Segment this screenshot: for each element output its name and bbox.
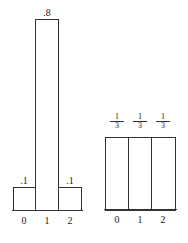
tick-left-0: 0 <box>14 216 34 226</box>
fraction-label-right-0: 1 3 <box>110 113 124 130</box>
value-label-left-0: .1 <box>14 176 34 186</box>
bar-left-2 <box>58 187 82 211</box>
tick-right-2: 2 <box>153 215 173 225</box>
fraction-label-right-1: 1 3 <box>133 113 147 130</box>
bar-right-2 <box>151 137 176 211</box>
value-label-left-1: .8 <box>37 8 57 18</box>
bar-right-1 <box>128 137 153 211</box>
tick-right-0: 0 <box>107 215 127 225</box>
bar-right-0 <box>105 137 130 211</box>
bar-left-1 <box>35 19 59 211</box>
fraction-label-right-2: 1 3 <box>156 113 170 130</box>
right-axis <box>104 209 177 210</box>
bar-left-0 <box>13 187 37 211</box>
left-axis <box>12 210 83 211</box>
value-label-left-2: .1 <box>60 176 80 186</box>
tick-right-1: 1 <box>130 215 150 225</box>
tick-left-2: 2 <box>60 216 80 226</box>
tick-left-1: 1 <box>37 216 57 226</box>
